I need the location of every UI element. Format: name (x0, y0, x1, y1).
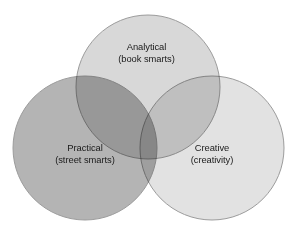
label-analytical-subtitle: (book smarts) (0, 53, 295, 65)
label-analytical-title: Analytical (0, 41, 295, 53)
label-creative-subtitle: (creativity) (127, 154, 297, 166)
label-creative-title: Creative (127, 142, 297, 154)
label-analytical: Analytical (book smarts) (0, 41, 295, 64)
venn-diagram-figure: Analytical (book smarts) Practical (stre… (0, 0, 297, 230)
label-creative: Creative (creativity) (127, 142, 297, 165)
venn-diagram-canvas (0, 0, 297, 230)
